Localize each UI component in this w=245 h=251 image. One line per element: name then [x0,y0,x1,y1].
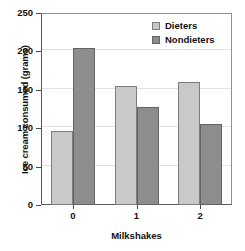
x-axis-title: Milkshakes [41,230,232,241]
y-tick-mark [36,205,41,206]
y-tick-label: 100 [3,123,33,133]
x-tick-mark [73,205,74,209]
y-tick-label: 0 [3,200,33,210]
legend-item-dieters: Dieters [152,19,215,32]
x-tick-label: 0 [61,210,85,221]
x-tick-mark [137,205,138,209]
y-tick-label: 50 [3,162,33,172]
y-tick-label: 150 [3,85,33,95]
y-axis-title: Ice cream consumed (grams) [19,15,30,205]
x-tick-mark [200,205,201,209]
bar-dieters-2 [178,82,200,205]
y-tick-label: 250 [3,8,33,18]
legend-label-nondieters: Nondieters [165,35,215,45]
bar-dieters-0 [51,131,73,205]
x-tick-label: 1 [125,210,149,221]
bar-nondieters-0 [73,48,95,205]
legend: Dieters Nondieters [152,19,215,47]
bar-dieters-1 [115,86,137,205]
bar-chart: Ice cream consumed (grams) 0501001502002… [0,0,245,251]
x-tick-label: 2 [188,210,212,221]
bar-nondieters-2 [200,124,222,205]
legend-swatch-icon-dieters [152,22,160,30]
legend-item-nondieters: Nondieters [152,33,215,46]
legend-label-dieters: Dieters [165,21,197,31]
bar-nondieters-1 [137,107,159,205]
y-tick-label: 200 [3,46,33,56]
legend-swatch-icon-nondieters [152,36,160,44]
